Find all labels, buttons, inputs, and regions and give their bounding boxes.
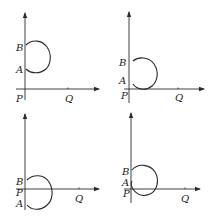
label-b: B: [15, 176, 23, 187]
label-p: P: [15, 187, 23, 198]
label-p: P: [15, 93, 23, 104]
arc-ba: [131, 165, 157, 195]
label-p: P: [120, 90, 128, 101]
label-q: Q: [181, 193, 189, 204]
diagram-canvas: B A P Q B A P Q B P A Q B A P Q: [0, 0, 213, 220]
label-a: A: [118, 75, 126, 86]
label-b: B: [118, 57, 126, 68]
label-p: P: [122, 188, 130, 199]
label-b: B: [121, 166, 129, 177]
label-a: A: [121, 177, 129, 188]
arc-ba: [26, 41, 50, 73]
label-q: Q: [65, 93, 73, 104]
label-a: A: [15, 64, 23, 75]
arc-ba: [133, 58, 157, 89]
panel-4: B A P Q: [121, 113, 200, 204]
label-a: A: [15, 198, 23, 209]
panel-2: B A P Q: [118, 12, 204, 103]
arc-ba: [27, 176, 52, 210]
label-q: Q: [75, 193, 83, 204]
label-b: B: [15, 42, 23, 53]
panel-3: B P A Q: [15, 114, 99, 210]
panel-1: B A P Q: [15, 13, 99, 104]
label-q: Q: [175, 92, 183, 103]
